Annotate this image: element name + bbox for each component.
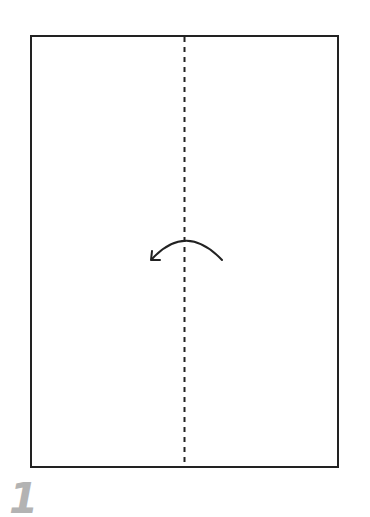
step-number: 1	[9, 478, 38, 517]
